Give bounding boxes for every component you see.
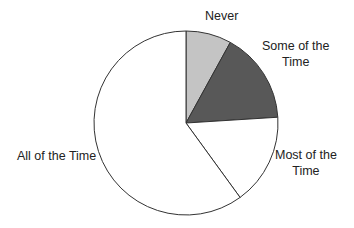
label-most-line1: Most of the: [275, 147, 337, 163]
label-all-of-the-time: All of the Time: [17, 148, 96, 164]
label-never: Never: [205, 8, 238, 24]
label-some-line1: Some of the: [262, 38, 329, 54]
label-some-line2: Time: [262, 54, 329, 70]
label-most-line2: Time: [275, 163, 337, 179]
pie-chart: [0, 0, 354, 228]
label-some-of-the-time: Some of the Time: [262, 38, 329, 70]
label-most-of-the-time: Most of the Time: [275, 147, 337, 179]
